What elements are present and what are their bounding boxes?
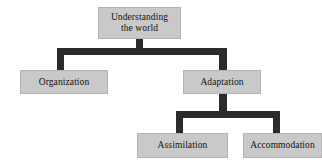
node-understanding-the-world: Understanding the world — [98, 7, 181, 39]
connector-root-to-organization — [57, 48, 64, 72]
connector-adaptation-to-assimilation — [176, 111, 183, 135]
connector-adaptation-to-accommodation — [273, 111, 280, 135]
node-label-root: Understanding the world — [109, 12, 170, 34]
connector-level2-horizontal-bar — [176, 111, 280, 118]
node-label-organization: Organization — [37, 77, 92, 88]
node-label-accommodation: Accommodation — [248, 140, 317, 151]
node-assimilation: Assimilation — [137, 133, 228, 158]
node-adaptation: Adaptation — [183, 70, 261, 94]
node-organization: Organization — [20, 70, 108, 94]
connector-level1-horizontal-bar — [57, 48, 227, 55]
connector-root-to-adaptation — [219, 48, 227, 72]
node-label-adaptation: Adaptation — [198, 77, 245, 88]
node-label-assimilation: Assimilation — [156, 140, 210, 151]
node-accommodation: Accommodation — [243, 133, 322, 158]
hierarchy-diagram: Understanding the world Organization Ada… — [0, 0, 322, 165]
